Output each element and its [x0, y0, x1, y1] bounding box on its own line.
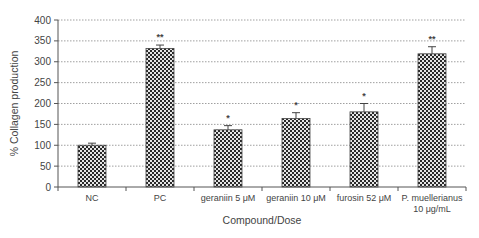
significance-marker: * [294, 100, 298, 110]
gridlines [58, 20, 466, 166]
y-axis-ticks: 050100150200250300350400 [34, 15, 58, 193]
x-category-label: PC [154, 193, 167, 203]
bar-group: * [214, 113, 242, 187]
x-category-label: geraniin 10 μM [266, 193, 326, 203]
bar-group: * [282, 100, 310, 187]
bar-group: * [350, 91, 378, 188]
x-category-label: 10 μg/mL [413, 204, 451, 214]
x-category-label: geraniin 5 μM [201, 193, 256, 203]
bar [282, 119, 310, 187]
bar-group: ** [418, 34, 446, 187]
y-tick-label: 150 [34, 119, 51, 130]
bar-group [78, 143, 106, 187]
x-category-label: NC [86, 193, 99, 203]
x-axis-title: Compound/Dose [223, 214, 302, 226]
y-tick-label: 100 [34, 140, 51, 151]
y-tick-label: 50 [40, 161, 52, 172]
y-tick-label: 250 [34, 77, 51, 88]
bars: ******* [78, 32, 446, 187]
axes [58, 20, 466, 191]
y-tick-label: 300 [34, 56, 51, 67]
x-category-label: furosin 52 μM [337, 193, 392, 203]
bar [78, 145, 106, 187]
x-axis-category-labels: NCPCgeraniin 5 μMgeraniin 10 μMfurosin 5… [86, 193, 463, 214]
y-axis-title: % Collagen production [8, 51, 20, 157]
y-axis-title-text: % Collagen production [8, 51, 20, 157]
significance-marker: * [362, 91, 366, 101]
significance-marker: ** [156, 32, 164, 42]
bar [350, 112, 378, 187]
bar-group: ** [146, 32, 174, 187]
bar [146, 48, 174, 187]
significance-marker: * [226, 113, 230, 123]
y-tick-label: 200 [34, 98, 51, 109]
bar-chart: % Collagen production 050100150200250300… [0, 0, 479, 238]
bar [418, 54, 446, 187]
y-tick-label: 350 [34, 35, 51, 46]
y-tick-label: 400 [34, 15, 51, 26]
y-tick-label: 0 [45, 182, 51, 193]
bar [214, 130, 242, 187]
significance-marker: ** [428, 34, 436, 44]
x-category-label: P. muellerianus [402, 193, 463, 203]
